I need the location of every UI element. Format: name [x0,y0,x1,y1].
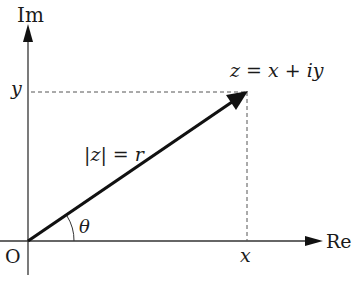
right-arrow-icon [305,236,323,246]
angle-label: θ [79,218,90,236]
real-axis [0,236,323,246]
x-coordinate-label: x [240,246,251,265]
real-axis-label: Re [326,232,352,251]
modulus-label: |z| = r [84,145,144,164]
angle-arc [67,216,74,241]
point-expression-label: z = x + iy [230,61,324,80]
vector-z [28,91,248,241]
imaginary-axis-label: Im [17,5,44,25]
origin-label: O [5,247,21,266]
complex-plane-diagram [0,0,361,291]
y-coordinate-label: y [11,79,22,98]
vector-arrowhead-icon [226,91,248,110]
